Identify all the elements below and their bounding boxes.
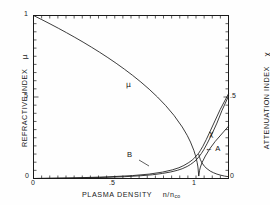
curve-label-mu: μ bbox=[126, 80, 131, 89]
y-right-tick-label-zero: 0 bbox=[230, 172, 234, 179]
y-axis-right-title: ATTENUATION INDEX χ bbox=[262, 41, 271, 161]
x-tick-label-0: 0 bbox=[31, 179, 35, 186]
curve-3 bbox=[199, 154, 229, 176]
curve-label-chi: χ bbox=[209, 129, 213, 138]
y-right-tick-label-half: .5 bbox=[230, 92, 236, 99]
x-axis-symbol: n/n bbox=[163, 190, 175, 199]
curve-2 bbox=[34, 94, 229, 179]
y-left-tick-label-one: 1 bbox=[24, 10, 28, 17]
branch-b-leader-line bbox=[139, 160, 149, 166]
y-left-tick-label-half: .5 bbox=[22, 92, 28, 99]
y-axis-left-title: REFRACTIVE INDEX μ bbox=[20, 41, 29, 161]
curve-label-branch-a: ← A bbox=[205, 144, 221, 153]
x-tick-label-one: 1 bbox=[192, 179, 196, 186]
x-axis-symbol-subscript: co bbox=[175, 193, 180, 199]
y-axis-right-title-text: ATTENUATION INDEX bbox=[262, 66, 271, 149]
chi-symbol: χ bbox=[262, 52, 271, 57]
curve-label-branch-b: B bbox=[127, 150, 132, 159]
figure-container: REFRACTIVE INDEX μ ATTENUATION INDEX χ P… bbox=[0, 0, 270, 205]
mu-symbol: μ bbox=[20, 54, 29, 59]
y-axis-left-title-text: REFRACTIVE INDEX bbox=[20, 69, 29, 147]
x-tick-label-half: .5 bbox=[109, 179, 115, 186]
x-axis-title: PLASMA DENSITY n/nco bbox=[33, 190, 229, 199]
y-left-tick-label-zero: 0 bbox=[25, 172, 29, 179]
x-axis-title-text: PLASMA DENSITY bbox=[82, 190, 152, 199]
curve-1 bbox=[34, 96, 229, 178]
